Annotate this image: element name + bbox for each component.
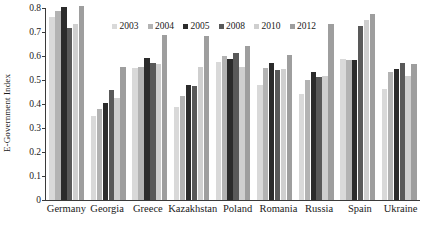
y-tick-label: 0	[36, 195, 41, 205]
bar	[411, 64, 416, 200]
y-tick-mark	[42, 176, 45, 177]
legend-item[interactable]: 2010	[254, 21, 281, 31]
bar-group	[171, 8, 213, 200]
x-tick-label: Germany	[46, 203, 87, 214]
bar	[287, 55, 292, 200]
bar	[132, 68, 137, 200]
bar	[352, 60, 357, 200]
legend-item[interactable]: 2003	[112, 21, 139, 31]
bar-group	[88, 8, 130, 200]
x-tick-label: Greece	[128, 203, 169, 214]
x-tick-label: Romania	[258, 203, 299, 214]
legend-swatch-icon	[254, 24, 259, 29]
y-tick-label: 0.6	[29, 51, 41, 61]
legend-swatch-icon	[183, 24, 188, 29]
bar	[109, 90, 114, 200]
bar	[180, 96, 185, 200]
x-axis-line	[45, 200, 420, 201]
bar	[239, 67, 244, 200]
legend-label: 2005	[191, 21, 210, 31]
bar	[322, 76, 327, 200]
bar	[245, 46, 250, 200]
bar	[97, 109, 102, 200]
bar-group	[379, 8, 421, 200]
bar	[114, 98, 119, 200]
y-tick-mark	[42, 8, 45, 9]
y-axis-title: E-Government Index	[0, 0, 14, 226]
bar	[382, 89, 387, 200]
bar	[400, 63, 405, 200]
bar	[162, 35, 167, 200]
y-tick-mark	[42, 56, 45, 57]
bar	[269, 63, 274, 200]
x-axis-labels: GermanyGeorgiaGreeceKazakhstanPolandRoma…	[46, 203, 421, 214]
bar	[91, 116, 96, 200]
x-tick-label: Russia	[299, 203, 340, 214]
plot-area: 00.10.20.30.40.50.60.70.8	[45, 8, 420, 201]
bar	[388, 72, 393, 200]
legend-label: 2004	[155, 21, 174, 31]
bar	[227, 59, 232, 200]
bar	[305, 80, 310, 200]
legend-swatch-icon	[219, 24, 224, 29]
y-tick-mark	[42, 152, 45, 153]
bar	[405, 76, 410, 200]
bar	[67, 28, 72, 200]
bar-group	[295, 8, 337, 200]
chart-legend: 200320042005200820102012	[112, 21, 316, 31]
bar	[358, 26, 363, 200]
legend-label: 2003	[120, 21, 139, 31]
bar	[120, 67, 125, 200]
legend-label: 2010	[262, 21, 281, 31]
bar	[370, 14, 375, 200]
bar	[346, 60, 351, 200]
bar-group	[212, 8, 254, 200]
x-tick-label: Poland	[217, 203, 258, 214]
bar	[222, 56, 227, 200]
y-tick-label: 0.8	[29, 3, 41, 13]
legend-item[interactable]: 2004	[148, 21, 175, 31]
bar	[364, 20, 369, 200]
bar-group	[46, 8, 88, 200]
bar-group	[337, 8, 379, 200]
y-tick-mark	[42, 128, 45, 129]
y-tick-mark	[42, 80, 45, 81]
bar	[49, 17, 54, 200]
legend-item[interactable]: 2005	[183, 21, 210, 31]
legend-swatch-icon	[290, 24, 295, 29]
y-tick-label: 0.5	[29, 75, 41, 85]
bar	[61, 7, 66, 200]
bar	[73, 24, 78, 200]
bar	[186, 85, 191, 200]
bar	[150, 63, 155, 200]
bar	[55, 11, 60, 200]
bar	[340, 59, 345, 200]
y-tick-label: 0.1	[29, 171, 41, 181]
bar	[257, 85, 262, 200]
y-tick-mark	[42, 104, 45, 105]
bar	[103, 103, 108, 200]
bar	[204, 36, 209, 200]
bar	[192, 86, 197, 200]
legend-item[interactable]: 2012	[290, 21, 317, 31]
y-tick-label: 0.7	[29, 27, 41, 37]
bar	[198, 67, 203, 200]
y-tick-mark	[42, 200, 45, 201]
bar-groups	[46, 8, 420, 200]
bar-group	[254, 8, 296, 200]
bar	[311, 72, 316, 200]
bar	[144, 58, 149, 200]
legend-swatch-icon	[148, 24, 153, 29]
bar	[263, 68, 268, 200]
bar	[233, 53, 238, 200]
e-government-index-bar-chart: E-Government Index 00.10.20.30.40.50.60.…	[0, 0, 424, 226]
legend-item[interactable]: 2008	[219, 21, 246, 31]
x-tick-label: Ukraine	[380, 203, 421, 214]
x-tick-label: Kazakhstan	[168, 203, 217, 214]
bar	[216, 62, 221, 200]
x-tick-label: Spain	[339, 203, 380, 214]
bar	[138, 67, 143, 200]
y-tick-mark	[42, 32, 45, 33]
bar	[299, 94, 304, 200]
bar	[275, 70, 280, 200]
